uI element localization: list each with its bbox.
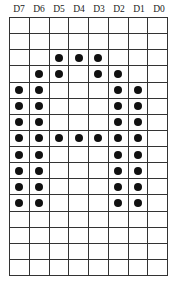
grid-cell: [29, 259, 49, 275]
column-labels: D7 D6 D5 D4 D3 D2 D1 D0: [9, 3, 169, 15]
grid-cell: [108, 82, 128, 98]
grid-cell: [49, 243, 69, 259]
grid-cell: [147, 17, 167, 33]
dot-icon: [114, 70, 122, 78]
dot-icon: [94, 54, 102, 62]
dot-icon: [15, 86, 23, 94]
grid-cell: [128, 33, 148, 49]
grid-cell: [88, 194, 108, 210]
grid-cell: [49, 114, 69, 130]
grid-cell: [29, 82, 49, 98]
grid-cell: [128, 178, 148, 194]
dot-icon: [114, 167, 122, 175]
grid-cell: [128, 211, 148, 227]
dot-icon: [114, 134, 122, 142]
grid-cell: [88, 114, 108, 130]
grid-cell: [49, 33, 69, 49]
grid-cell: [147, 178, 167, 194]
grid-cell: [128, 259, 148, 275]
column-label-d7: D7: [9, 3, 29, 15]
dot-icon: [35, 102, 43, 110]
grid-cell: [128, 162, 148, 178]
grid-cell: [68, 259, 88, 275]
grid-cell: [147, 194, 167, 210]
grid-cell: [68, 227, 88, 243]
grid-cell: [88, 130, 108, 146]
grid-cell: [9, 162, 29, 178]
grid-cell: [128, 146, 148, 162]
column-label-d6: D6: [29, 3, 49, 15]
grid-cell: [29, 178, 49, 194]
grid-cell: [49, 98, 69, 114]
grid-cell: [88, 259, 108, 275]
grid-cell: [68, 98, 88, 114]
grid-cell: [49, 194, 69, 210]
grid-cell: [128, 227, 148, 243]
grid-cell: [68, 178, 88, 194]
grid-cell: [108, 98, 128, 114]
grid-cell: [68, 17, 88, 33]
grid-cell: [88, 162, 108, 178]
grid-cell: [108, 178, 128, 194]
grid-cell: [29, 114, 49, 130]
grid-cell: [147, 130, 167, 146]
dot-icon: [75, 54, 83, 62]
dot-icon: [35, 118, 43, 126]
grid-cell: [128, 49, 148, 65]
grid-cell: [9, 114, 29, 130]
grid-cell: [68, 130, 88, 146]
grid-cell: [128, 65, 148, 81]
grid-cell: [29, 227, 49, 243]
grid-cell: [29, 49, 49, 65]
grid-cell: [68, 33, 88, 49]
grid-cell: [29, 33, 49, 49]
grid-cell: [108, 49, 128, 65]
grid-cell: [128, 82, 148, 98]
grid-cell: [88, 49, 108, 65]
grid-cell: [49, 130, 69, 146]
grid-cell: [9, 146, 29, 162]
dot-icon: [15, 167, 23, 175]
grid-cell: [108, 162, 128, 178]
grid-cell: [108, 259, 128, 275]
grid-cell: [29, 65, 49, 81]
grid-cell: [49, 65, 69, 81]
grid-cell: [9, 130, 29, 146]
dot-icon: [134, 183, 142, 191]
dot-icon: [35, 151, 43, 159]
grid-cell: [68, 65, 88, 81]
dot-icon: [35, 167, 43, 175]
grid-cell: [29, 194, 49, 210]
grid-cell: [147, 227, 167, 243]
dot-icon: [35, 86, 43, 94]
grid-cell: [108, 65, 128, 81]
grid-cell: [88, 17, 108, 33]
dot-icon: [35, 199, 43, 207]
grid-cell: [49, 211, 69, 227]
grid-cell: [9, 17, 29, 33]
grid-cell: [88, 82, 108, 98]
dot-icon: [114, 183, 122, 191]
grid-cell: [29, 243, 49, 259]
grid-cell: [9, 82, 29, 98]
grid-cell: [88, 227, 108, 243]
grid-cell: [49, 178, 69, 194]
grid-cell: [88, 98, 108, 114]
dot-icon: [15, 199, 23, 207]
grid-cell: [147, 49, 167, 65]
grid-cell: [68, 162, 88, 178]
grid-cell: [29, 211, 49, 227]
dot-icon: [94, 70, 102, 78]
grid-cell: [29, 17, 49, 33]
grid-cell: [9, 49, 29, 65]
dot-icon: [134, 151, 142, 159]
dot-icon: [114, 86, 122, 94]
grid-cell: [128, 17, 148, 33]
grid-cell: [88, 33, 108, 49]
column-label-d5: D5: [49, 3, 69, 15]
dot-icon: [134, 102, 142, 110]
column-label-d4: D4: [69, 3, 89, 15]
dot-icon: [15, 151, 23, 159]
dot-icon: [134, 199, 142, 207]
dot-icon: [15, 118, 23, 126]
